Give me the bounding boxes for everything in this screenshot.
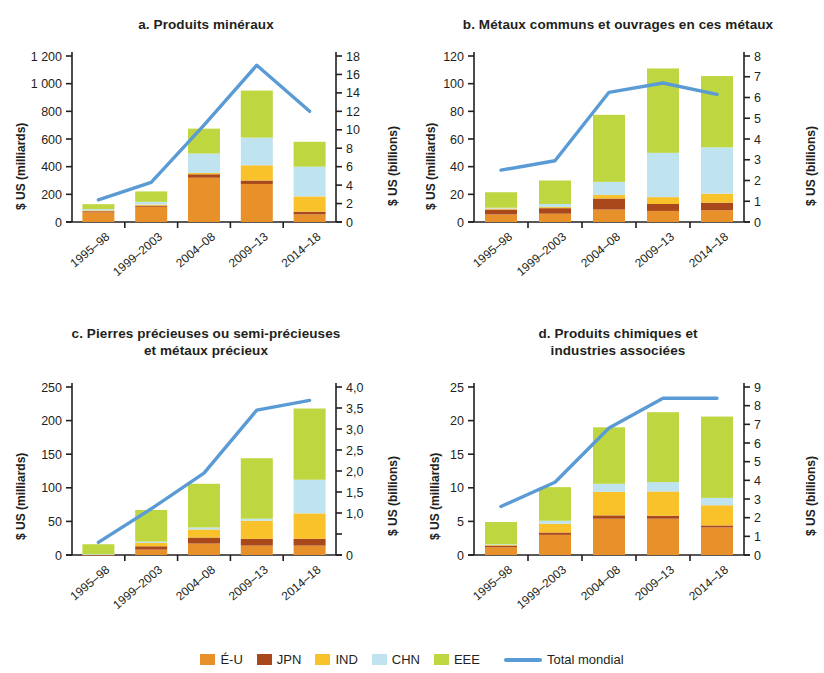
bar-segment-chn xyxy=(485,208,517,209)
right-tick-label: 9 xyxy=(754,381,761,395)
bar-segment-eee xyxy=(82,204,114,209)
x-axis-label: 2004–08 xyxy=(173,562,218,603)
right-tick-label: 2 xyxy=(754,174,761,188)
bar-segment-jpn xyxy=(135,206,167,207)
legend-item-us[interactable]: É-U xyxy=(200,652,242,667)
left-tick-label: 5 xyxy=(457,515,464,529)
left-tick-label: 250 xyxy=(41,381,62,395)
bar-segment-ind xyxy=(647,491,679,515)
right-tick-label: 3,5 xyxy=(346,402,363,416)
bar-segment-chn xyxy=(135,542,167,543)
bar-segment-eee xyxy=(485,192,517,207)
bar-segment-jpn xyxy=(82,211,114,212)
left-tick-label: 0 xyxy=(55,216,62,230)
bar-segment-eee xyxy=(188,129,220,154)
legend-swatch-chn-icon xyxy=(372,654,387,665)
bar-segment-jpn xyxy=(701,203,733,211)
legend-item-total-mondial[interactable]: Total mondial xyxy=(504,652,624,667)
bar-segment-jpn xyxy=(188,538,220,544)
bar-segment-us xyxy=(188,544,220,555)
bar-segment-ind xyxy=(647,197,679,204)
right-tick-label: 0 xyxy=(754,549,761,563)
left-tick-label: 0 xyxy=(457,216,464,230)
bar-segment-us xyxy=(485,547,517,555)
panel-b-plot: 0204060801001200123456781995–981999–2003… xyxy=(412,10,824,310)
legend-item-chn[interactable]: CHN xyxy=(372,652,420,667)
x-axis-label: 2004–08 xyxy=(578,562,623,603)
bar-segment-jpn xyxy=(593,198,625,209)
bar-segment-chn xyxy=(539,521,571,524)
x-axis-label: 1995–98 xyxy=(470,562,515,603)
left-tick-label: 200 xyxy=(41,414,62,428)
x-axis-label: 1995–98 xyxy=(68,229,113,270)
bar-segment-chn xyxy=(539,204,571,207)
left-tick-label: 0 xyxy=(457,549,464,563)
right-tick-label: 18 xyxy=(346,50,360,64)
bar-segment-ind xyxy=(593,195,625,198)
panel-c-svg: 05010015020025001,01,52,02,53,03,54,0199… xyxy=(0,325,412,630)
bar-segment-chn xyxy=(647,482,679,491)
bar-segment-us xyxy=(701,210,733,222)
x-axis-label: 2014–18 xyxy=(279,562,324,603)
bar-segment-ind xyxy=(294,513,326,539)
right-tick-label: 4 xyxy=(346,179,353,193)
bar-segment-jpn xyxy=(593,515,625,518)
bar-segment-chn xyxy=(701,498,733,505)
bar-segment-jpn xyxy=(188,174,220,177)
legend-item-eee[interactable]: EEE xyxy=(434,652,480,667)
bar-segment-chn xyxy=(188,527,220,529)
x-axis-label: 2009–13 xyxy=(226,229,271,270)
right-tick-label: 1,0 xyxy=(346,507,363,521)
bar-segment-chn xyxy=(241,138,273,166)
right-tick-label: 1 xyxy=(754,530,761,544)
bar-segment-ind xyxy=(82,210,114,211)
left-tick-label: 15 xyxy=(450,448,464,462)
bar-segment-ind xyxy=(188,173,220,174)
bar-segment-eee xyxy=(294,409,326,480)
legend-item-ind[interactable]: IND xyxy=(315,652,357,667)
bar-segment-eee xyxy=(82,544,114,554)
right-tick-label: 3 xyxy=(754,153,761,167)
bar-segment-us xyxy=(593,210,625,222)
right-tick-label: 8 xyxy=(754,50,761,64)
x-axis-label: 1995–98 xyxy=(470,229,515,270)
legend-line-total-mondial-icon xyxy=(504,658,542,662)
left-tick-label: 25 xyxy=(450,381,464,395)
right-tick-label: 8 xyxy=(346,142,353,156)
left-tick-label: 20 xyxy=(450,414,464,428)
bar-segment-eee xyxy=(539,487,571,521)
bar-segment-ind xyxy=(485,209,517,210)
right-tick-label: 2 xyxy=(346,197,353,211)
left-tick-label: 200 xyxy=(41,188,62,202)
legend-item-jpn[interactable]: JPN xyxy=(257,652,302,667)
x-axis-label: 1999–2003 xyxy=(514,229,569,279)
bar-segment-ind xyxy=(539,207,571,208)
right-tick-label: 5 xyxy=(754,112,761,126)
bar-segment-jpn xyxy=(485,546,517,548)
bar-segment-us xyxy=(593,519,625,555)
bar-segment-chn xyxy=(241,519,273,521)
legend-label-chn: CHN xyxy=(392,652,420,667)
bar-segment-eee xyxy=(135,191,167,201)
right-tick-label: 6 xyxy=(754,437,761,451)
right-tick-label: 4 xyxy=(754,474,761,488)
bar-segment-chn xyxy=(701,147,733,193)
bar-segment-chn xyxy=(485,544,517,545)
left-tick-label: 0 xyxy=(55,549,62,563)
panel-b-svg: 0204060801001200123456781995–981999–2003… xyxy=(412,10,824,310)
bar-segment-jpn xyxy=(294,212,326,215)
bar-segment-chn xyxy=(647,153,679,197)
bar-segment-chn xyxy=(593,484,625,492)
left-tick-label: 10 xyxy=(450,481,464,495)
right-tick-label: 4,0 xyxy=(346,381,363,395)
bar-segment-jpn xyxy=(539,208,571,214)
bar-segment-jpn xyxy=(647,204,679,211)
bar-segment-eee xyxy=(593,115,625,182)
figure-root: a. Produits minéraux $ US (milliards) $ … xyxy=(0,0,824,673)
x-axis-label: 1999–2003 xyxy=(514,562,569,612)
legend-label-total-mondial: Total mondial xyxy=(547,652,624,667)
bar-segment-eee xyxy=(647,68,679,152)
bar-segment-chn xyxy=(593,182,625,195)
bar-segment-chn xyxy=(294,167,326,197)
panel-a: a. Produits minéraux $ US (milliards) $ … xyxy=(0,10,412,310)
